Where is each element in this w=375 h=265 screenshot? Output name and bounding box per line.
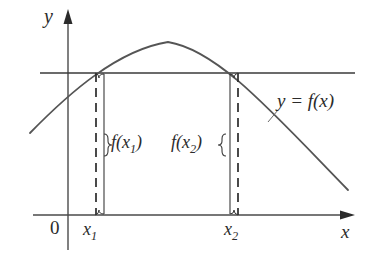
fx2-close-paren: ) (196, 132, 202, 152)
fx2-function-text: f(x (171, 132, 190, 152)
y-axis-label: y (44, 6, 53, 26)
x1-tick-label: x1 (83, 220, 97, 242)
x-axis-label: x (341, 222, 349, 241)
x-axis-arrowhead (340, 211, 355, 220)
function-curve (30, 42, 348, 190)
curve-equation-label: y = f(x) (277, 91, 334, 110)
x1-tick-subscript: 1 (91, 229, 97, 243)
fx1-close-paren: ) (136, 132, 142, 152)
x1-vertical-strip (95, 73, 104, 215)
fx2-brace-icon (218, 134, 226, 156)
x2-tick-label: x2 (224, 220, 238, 242)
fx1-annotation: f(x1) (111, 133, 142, 155)
x1-tick-base: x (83, 219, 91, 239)
function-graph-figure: y x 0 x1 x2 f(x1) f(x2) y = f(x) (0, 0, 375, 265)
y-axis-arrowhead (64, 9, 73, 24)
x2-bottom-cap (230, 210, 238, 215)
fx1-function-text: f(x (111, 132, 130, 152)
x2-vertical-strip (230, 73, 238, 215)
y-axis (64, 9, 73, 250)
x2-tick-subscript: 2 (232, 229, 238, 243)
x2-tick-base: x (224, 219, 232, 239)
fx2-annotation: f(x2) (171, 133, 202, 155)
origin-label: 0 (50, 218, 60, 237)
x-axis (33, 211, 355, 220)
